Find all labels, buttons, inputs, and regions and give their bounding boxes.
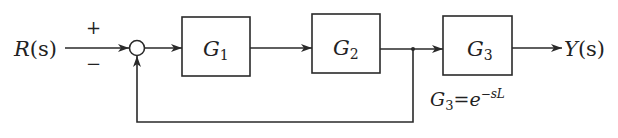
g3-annotation: G3=e−sL bbox=[430, 87, 505, 113]
input-label: R(s) bbox=[13, 37, 57, 61]
summing-junction bbox=[130, 41, 145, 56]
plus-sign: + bbox=[86, 17, 101, 38]
output-label: Y(s) bbox=[564, 37, 605, 61]
minus-sign: − bbox=[86, 53, 101, 74]
block-diagram: R(s) + − G1 G2 G3 Y(s) G3=e−sL bbox=[0, 0, 618, 138]
